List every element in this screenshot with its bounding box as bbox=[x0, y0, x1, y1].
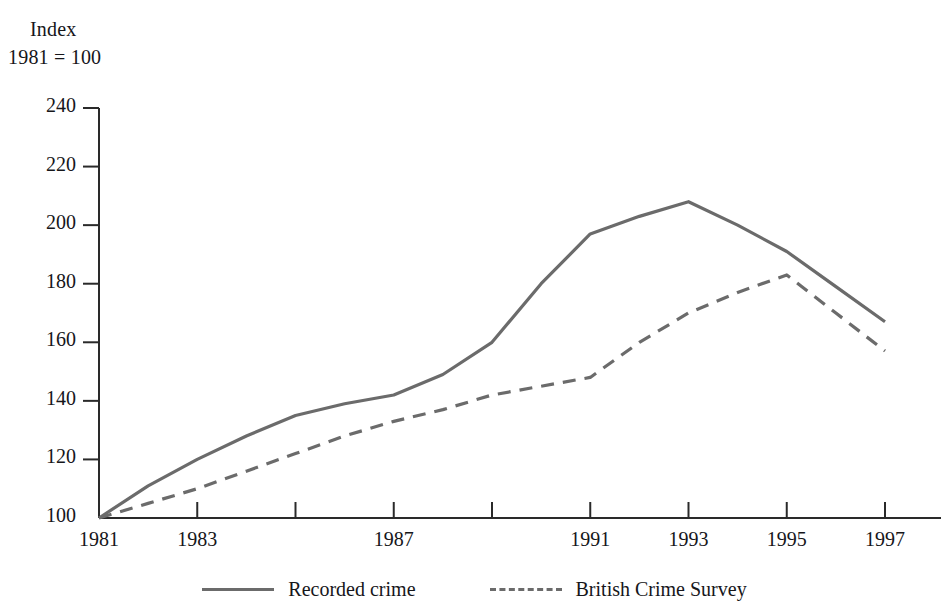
legend-item[interactable]: British Crime Survey bbox=[490, 578, 747, 601]
chart-figure: Index 1981 = 100 10012014016018020022024… bbox=[0, 0, 949, 614]
plot-area bbox=[0, 0, 949, 614]
legend-label: British Crime Survey bbox=[576, 578, 747, 601]
legend-label: Recorded crime bbox=[288, 578, 415, 601]
x-axis-ticks bbox=[197, 502, 885, 518]
axes bbox=[99, 108, 941, 518]
series-line-1 bbox=[99, 202, 885, 518]
legend-line-swatch-dashed bbox=[490, 588, 562, 591]
legend-item[interactable]: Recorded crime bbox=[202, 578, 415, 601]
series-line-2 bbox=[99, 275, 885, 518]
legend-line-swatch-solid bbox=[202, 588, 274, 591]
chart-legend: Recorded crimeBritish Crime Survey bbox=[0, 578, 949, 601]
y-axis-ticks bbox=[83, 108, 99, 459]
data-series-lines bbox=[99, 202, 885, 518]
